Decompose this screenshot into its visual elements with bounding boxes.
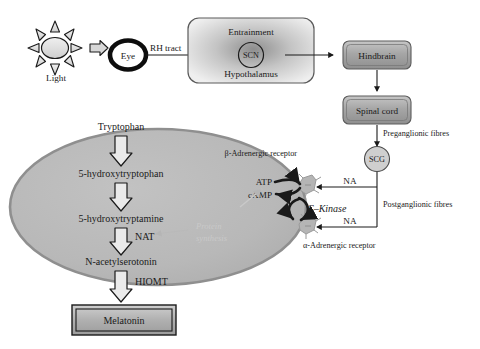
c-kinase-label: C–Kinase xyxy=(307,203,347,214)
entrainment-label: Entrainment xyxy=(228,27,274,37)
protein-synthesis-line-1: Protein xyxy=(195,221,221,231)
atp-label: ATP xyxy=(256,177,272,187)
light-label: Light xyxy=(46,73,66,83)
light-to-eye-arrow xyxy=(90,41,108,56)
protein-synthesis-line-2: synthesis xyxy=(196,233,228,243)
na-upper-label: NA xyxy=(343,176,357,186)
rh-tract-label: RH tract xyxy=(150,43,182,53)
postganglionic-label: Postganglionic fibres xyxy=(383,200,452,209)
na-lower-label: NA xyxy=(343,216,357,226)
diagram-canvas: Light Eye RH tract Entrainment SCN Hypot… xyxy=(0,0,480,349)
hydroxytryptamine-label: 5-hydroxytryptamine xyxy=(79,213,165,224)
sun-icon xyxy=(28,21,82,75)
beta-receptor-label: β-Adrenergic receptor xyxy=(225,149,298,158)
nat-enzyme-label: NAT xyxy=(135,231,154,242)
spinal-cord-label: Spinal cord xyxy=(356,106,399,116)
eye-label: Eye xyxy=(121,51,135,61)
scg-label: SCG xyxy=(369,155,385,164)
hydroxytryptophan-label: 5-hydroxytryptophan xyxy=(79,168,164,179)
hypothalamus-label: Hypothalamus xyxy=(224,69,278,79)
melatonin-label: Melatonin xyxy=(103,315,144,326)
tryptophan-label: Tryptophan xyxy=(98,121,144,132)
n-acetylserotonin-label: N-acetylserotonin xyxy=(85,256,157,267)
hindbrain-label: Hindbrain xyxy=(358,51,396,61)
scn-label: SCN xyxy=(243,51,259,60)
preganglionic-label: Preganglionic fibres xyxy=(383,129,449,138)
hiomt-enzyme-label: HIOMT xyxy=(135,276,168,287)
alpha-receptor-label: α-Adrenergic receptor xyxy=(303,241,376,250)
